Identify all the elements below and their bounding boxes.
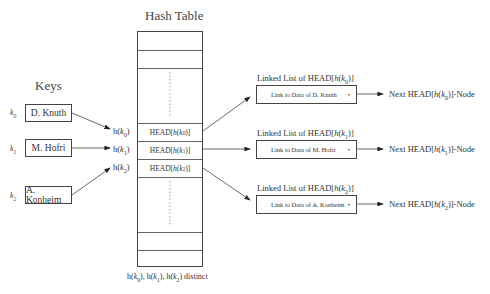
hash-label-k1: h(k1) xyxy=(113,144,130,156)
table-slot xyxy=(138,68,202,123)
linked-list-title-k2: Linked List of HEAD[h(k2)] xyxy=(257,183,354,195)
key-box-m-hofri: M. Hofri xyxy=(25,139,72,157)
key-label-k2: k2 xyxy=(10,191,16,202)
table-slot xyxy=(138,177,202,232)
key-label-k1: k1 xyxy=(10,144,16,155)
table-slot xyxy=(138,232,202,250)
next-node-k1: Next HEAD[h(k1)]-Node xyxy=(389,144,475,156)
table-slot xyxy=(138,50,202,68)
table-slot-head-k0: HEAD[h(k0)] xyxy=(138,123,202,141)
node-text: Link to Data of D. Knuth xyxy=(271,91,337,98)
linked-list-node-k0: Link to Data of D. Knuth• xyxy=(256,85,357,104)
key-box-a-konheim: A. Konheim xyxy=(25,186,72,204)
key-box-d-knuth: D. Knuth xyxy=(25,104,72,122)
table-slot-head-k1: HEAD[h(k1)] xyxy=(138,141,202,159)
linked-list-title-k0: Linked List of HEAD[h(k0)] xyxy=(257,73,354,85)
node-text: Link to Data of A. Konheim xyxy=(271,201,344,208)
linked-list-node-k2: Link to Data of A. Konheim• xyxy=(256,195,357,214)
hash-table: HEAD[h(k0)] HEAD[h(k1)] HEAD[h(k2)] xyxy=(137,31,203,267)
hash-table-caption: h(k0), h(k1), h(k2) distinct xyxy=(127,272,208,283)
linked-list-node-k1: Link to Data of M. Hofri• xyxy=(256,140,357,159)
linked-list-title-k1: Linked List of HEAD[h(k1)] xyxy=(257,128,354,140)
table-slot xyxy=(138,250,202,266)
table-slot-head-k2: HEAD[h(k2)] xyxy=(138,159,202,177)
next-node-k0: Next HEAD[h(k0)]-Node xyxy=(389,89,475,101)
key-label-k0: k0 xyxy=(10,108,16,119)
node-text: Link to Data of M. Hofri xyxy=(271,146,336,153)
next-node-k2: Next HEAD[h(k2)]-Node xyxy=(389,199,475,211)
hash-label-k2: h(k2) xyxy=(113,162,130,174)
hash-label-k0: h(k0) xyxy=(113,126,130,138)
